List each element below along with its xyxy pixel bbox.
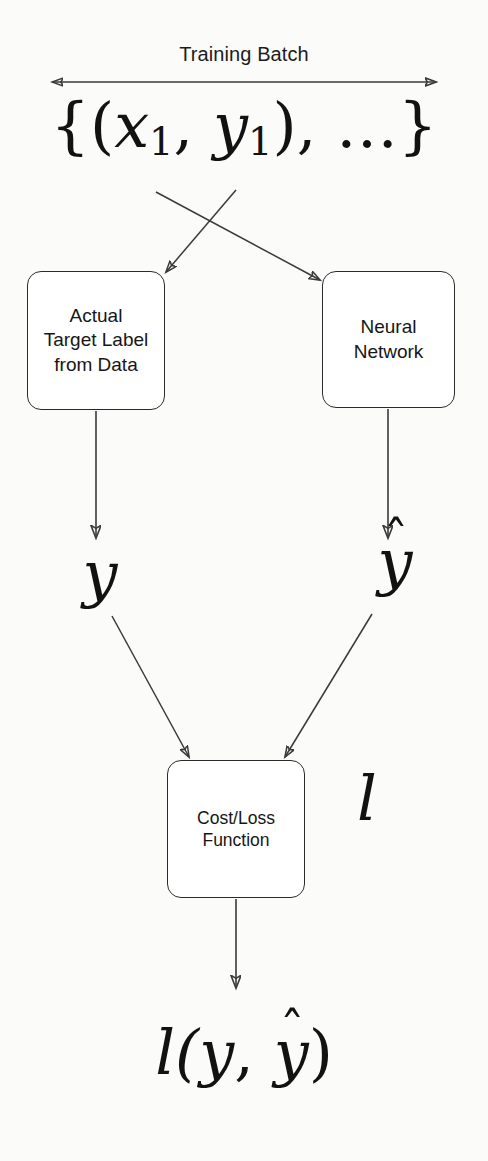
- set-comma-1: ,: [174, 89, 213, 162]
- y-symbol: y: [213, 89, 248, 162]
- node-neural-network[interactable]: Neural Network: [322, 271, 455, 408]
- diagram-canvas: Training Batch {(x1, y1), …}: [0, 0, 488, 1161]
- edge-yhat-to-cost-loss: [285, 614, 372, 757]
- symbol-y-hat-wrap: ˆy: [377, 531, 412, 593]
- node-actual-target-label-text: Actual Target Label from Data: [40, 304, 153, 377]
- hat-accent-icon: ˆ: [384, 516, 409, 566]
- loss-expr-y: y: [199, 1016, 234, 1089]
- loss-expr-prefix: l(: [155, 1016, 199, 1089]
- set-open-brace: {(: [50, 89, 114, 162]
- training-batch-label: Training Batch: [0, 42, 488, 66]
- node-cost-loss-function[interactable]: Cost/Loss Function: [167, 760, 305, 898]
- set-close-paren: ),: [272, 89, 336, 162]
- symbol-y-hat: ˆy: [335, 531, 455, 593]
- node-cost-loss-function-text: Cost/Loss Function: [193, 807, 279, 852]
- edge-y-to-target-label: [166, 190, 236, 272]
- symbol-loss-l-glyph: l: [357, 762, 377, 835]
- loss-expr-hat-accent-icon: ˆ: [280, 1007, 305, 1057]
- x-symbol: x: [114, 89, 149, 162]
- x-subscript: 1: [149, 119, 173, 164]
- symbol-y: y: [40, 543, 160, 605]
- symbol-loss-l: l: [312, 768, 422, 830]
- node-neural-network-text: Neural Network: [350, 315, 428, 364]
- loss-expr-comma: ,: [234, 1016, 273, 1089]
- node-actual-target-label[interactable]: Actual Target Label from Data: [27, 271, 165, 410]
- set-ellipsis: …: [336, 89, 398, 162]
- loss-output-expression: l(y, ˆy): [0, 1022, 488, 1084]
- symbol-y-glyph: y: [82, 537, 117, 610]
- set-close-brace: }: [398, 89, 437, 162]
- edge-x-to-neural-network: [156, 192, 320, 280]
- loss-expr-suffix: ): [309, 1016, 333, 1089]
- loss-expr-yhat-wrap: ˆy: [274, 1022, 309, 1084]
- y-subscript: 1: [248, 119, 272, 164]
- batch-set-notation: {(x1, y1), …}: [0, 95, 488, 162]
- edge-y-to-cost-loss: [112, 616, 189, 757]
